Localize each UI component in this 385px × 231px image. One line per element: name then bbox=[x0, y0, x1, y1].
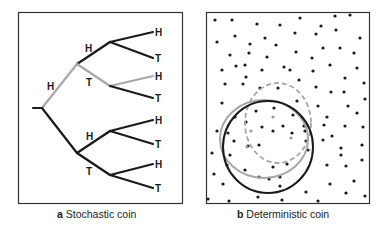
edge-l3-7 bbox=[110, 164, 153, 175]
edge-l2-upper-tails bbox=[77, 64, 110, 86]
caption-panel-b: b Deterministic coin bbox=[237, 208, 329, 220]
edge-l3-4 bbox=[110, 86, 153, 98]
edge-l3-8 bbox=[110, 175, 153, 188]
gray-solid-region bbox=[220, 100, 308, 178]
label-l2-lower-heads: H bbox=[86, 131, 93, 142]
tree-labels: H H T H T H T H T H T H T bbox=[47, 27, 162, 194]
edge-l3-2 bbox=[110, 42, 153, 58]
edge-l3-5 bbox=[110, 120, 153, 131]
leaf-label-3: H bbox=[155, 71, 162, 82]
leaf-label-2: T bbox=[155, 53, 161, 64]
edge-l3-6 bbox=[110, 131, 153, 144]
figure-canvas: H H T H T H T H T H T H T bbox=[0, 0, 385, 231]
label-l2-upper-tails: T bbox=[86, 77, 92, 88]
edge-l2-upper-heads bbox=[77, 42, 110, 64]
edge-l2-lower-heads bbox=[77, 131, 110, 153]
edge-l3-1 bbox=[110, 32, 153, 42]
leaf-label-1: H bbox=[155, 27, 162, 38]
leaf-label-4: T bbox=[155, 93, 161, 104]
caption-text-b: Deterministic coin bbox=[246, 208, 329, 220]
regions bbox=[220, 83, 313, 193]
caption-text-a: Stochastic coin bbox=[66, 208, 137, 220]
label-l2-upper-heads: H bbox=[85, 43, 92, 54]
edge-l3-3 bbox=[110, 76, 153, 86]
tree-edges bbox=[33, 32, 153, 188]
caption-panel-a: a Stochastic coin bbox=[57, 208, 136, 220]
leaf-label-5: H bbox=[155, 115, 162, 126]
edge-l1-tails bbox=[42, 108, 77, 153]
panel-a-stochastic-tree: H H T H T H T H T H T H T bbox=[19, 13, 183, 204]
leaf-label-6: T bbox=[155, 139, 161, 150]
label-l2-lower-tails: T bbox=[86, 166, 92, 177]
edge-l2-lower-tails bbox=[77, 153, 110, 175]
leaf-label-7: H bbox=[155, 159, 162, 170]
caption-letter-b: b bbox=[237, 208, 243, 220]
leaf-label-8: T bbox=[155, 183, 161, 194]
caption-letter-a: a bbox=[57, 208, 63, 220]
gray-dashed-region bbox=[245, 83, 311, 163]
panel-b-deterministic-scatter bbox=[206, 13, 369, 204]
label-l1-heads: H bbox=[47, 81, 54, 92]
highlighted-dots bbox=[245, 115, 292, 148]
